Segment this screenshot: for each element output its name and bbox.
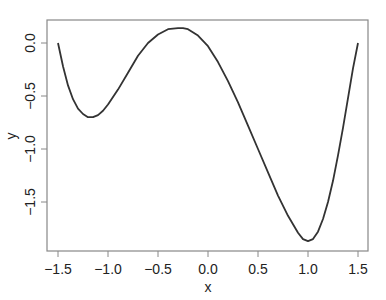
x-axis-label: x [205,279,212,295]
x-tick-label: 1.0 [298,261,318,277]
y-axis-label: y [3,133,19,140]
y-tick-label: −1.0 [22,135,38,163]
plot-frame [47,20,368,251]
x-axis: −1.5−1.0−0.50.00.51.01.5 [44,251,368,277]
x-tick-label: −1.5 [44,261,72,277]
y-tick-label: −1.5 [22,188,38,216]
line-chart: −1.5−1.0−0.50.00.51.01.5 0.0−0.5−1.0−1.5… [0,0,386,300]
y-tick-label: −0.5 [22,82,38,110]
x-tick-label: 0.0 [198,261,218,277]
x-tick-label: 1.5 [348,261,368,277]
x-tick-label: −0.5 [144,261,172,277]
y-tick-label: 0.0 [22,33,38,53]
y-axis: 0.0−0.5−1.0−1.5 [22,33,47,216]
x-tick-label: 0.5 [248,261,268,277]
x-tick-label: −1.0 [94,261,122,277]
data-line [58,28,358,241]
